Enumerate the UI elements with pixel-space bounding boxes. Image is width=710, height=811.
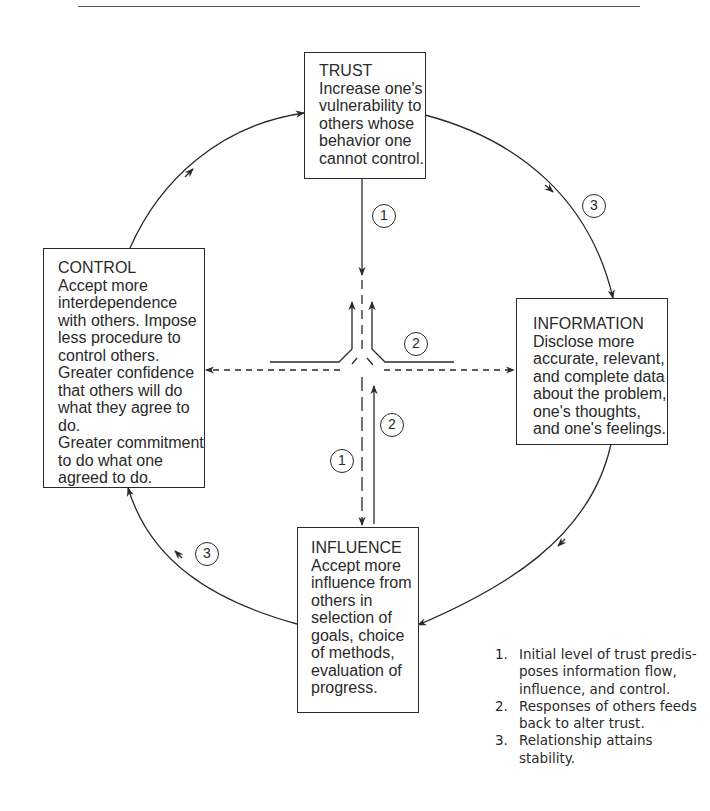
arc-information-to-influence — [418, 444, 611, 625]
influence-title: INFLUENCE — [311, 539, 412, 557]
control-body: Accept more interdependence with others.… — [58, 277, 204, 487]
note-item-2: 2. Responses of others feeds back to alt… — [495, 698, 710, 733]
note-number: 1. — [495, 646, 508, 663]
note-text: Responses of others feeds back to alter … — [519, 698, 710, 733]
badge-influence-down-1: 1 — [330, 449, 354, 473]
note-item-1: 1. Initial level of trust predis- poses … — [495, 646, 710, 698]
information-body: Disclose more accurate, relevant, and co… — [533, 333, 666, 438]
notes-legend: 1. Initial level of trust predis- poses … — [495, 646, 710, 767]
control-box: CONTROL Accept more interdependence with… — [43, 248, 205, 488]
trust-body: Increase one's vulnerability to others w… — [319, 80, 424, 168]
influence-box: INFLUENCE Accept more influence from oth… — [297, 527, 419, 713]
note-text: Initial level of trust predis- poses inf… — [519, 646, 710, 698]
arc-influence-to-control-mid-arrow — [175, 551, 182, 558]
arc-control-to-trust-mid-arrow — [185, 169, 193, 177]
control-title: CONTROL — [58, 259, 204, 277]
trust-title: TRUST — [319, 62, 424, 80]
badge-upper-right-3: 3 — [582, 194, 606, 218]
badge-lower-left-3: 3 — [195, 542, 219, 566]
badge-influence-up-2: 2 — [380, 413, 404, 437]
influence-body: Accept more influence from others in sel… — [311, 557, 412, 697]
arc-information-to-influence-mid-arrow — [558, 539, 565, 546]
note-text: Relationship attains stability. — [519, 732, 710, 767]
arc-control-to-trust — [130, 113, 304, 248]
junction-diagonal-right — [367, 358, 373, 365]
note-number: 3. — [495, 732, 508, 749]
information-box: INFORMATION Disclose more accurate, rele… — [516, 298, 668, 445]
edge-feedback-left-branch — [270, 302, 352, 362]
note-item-3: 3. Relationship attains stability. — [495, 732, 710, 767]
arc-trust-to-information-mid-arrow — [545, 185, 553, 192]
badge-center-right-2: 2 — [404, 332, 428, 356]
badge-trust-down-1: 1 — [372, 204, 396, 228]
information-title: INFORMATION — [533, 315, 666, 333]
note-number: 2. — [495, 698, 508, 715]
junction-diagonal-left — [352, 358, 357, 364]
trust-box: TRUST Increase one's vulnerability to ot… — [304, 52, 426, 179]
